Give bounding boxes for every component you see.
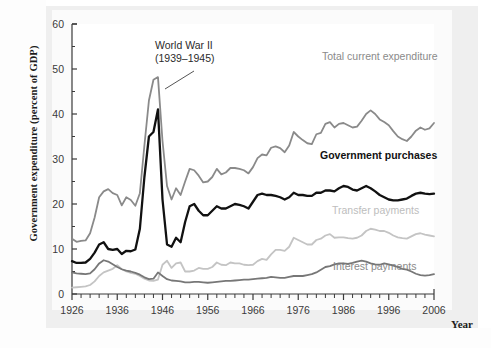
y-tick-label: 0 xyxy=(58,288,64,300)
x-tick-label: 1936 xyxy=(106,304,130,316)
annotation-leader-line xyxy=(165,71,194,89)
annotation-leader-layer xyxy=(165,71,194,89)
x-tick-label: 1946 xyxy=(151,304,175,316)
y-tick-label: 50 xyxy=(52,63,64,75)
x-tick-label: 1976 xyxy=(287,304,311,316)
series-layer xyxy=(72,77,434,288)
y-tick-label: 30 xyxy=(52,153,64,165)
series-line-government-purchases xyxy=(72,110,434,263)
x-tick-label: 2006 xyxy=(422,304,446,316)
x-tick-label: 1996 xyxy=(377,304,401,316)
y-tick-label: 40 xyxy=(52,108,64,120)
y-tick-label: 60 xyxy=(52,18,64,30)
chart-figure: Government expenditure (percent of GDP) … xyxy=(0,0,491,348)
x-tick-label: 1926 xyxy=(60,304,84,316)
chart-canvas: 0102030405060192619361946195619661976198… xyxy=(0,0,491,348)
x-tick-label: 1956 xyxy=(196,304,220,316)
axes-layer: 0102030405060192619361946195619661976198… xyxy=(52,18,446,316)
y-tick-label: 20 xyxy=(52,198,64,210)
series-line-total-current-expenditure xyxy=(72,77,434,242)
y-tick-label: 10 xyxy=(52,243,64,255)
x-tick-label: 1966 xyxy=(241,304,265,316)
x-tick-label: 1986 xyxy=(332,304,356,316)
